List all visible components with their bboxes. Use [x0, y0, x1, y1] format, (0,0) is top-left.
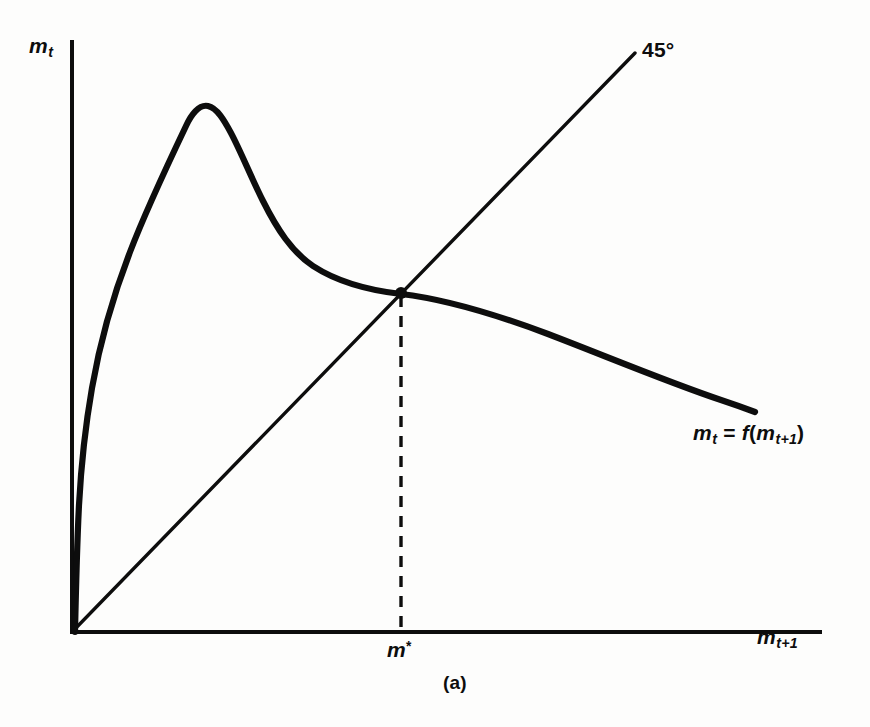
function-arg-subscript: t+1	[775, 431, 797, 447]
panel-caption: (a)	[443, 672, 467, 694]
y-axis-label-base: m	[29, 34, 48, 57]
equilibrium-label: m*	[387, 638, 411, 662]
function-equals: =	[717, 421, 742, 444]
figure-root: mt mt+1 45° mt = f(mt+1) m* (a)	[0, 0, 870, 727]
function-symbol: f	[742, 421, 749, 444]
x-axis-label-subscript: t+1	[776, 635, 798, 651]
y-axis-label: mt	[29, 34, 53, 60]
forty-five-degree-line	[72, 53, 635, 632]
forty-five-degree-label: 45°	[642, 38, 674, 62]
equilibrium-label-base: m	[387, 638, 406, 661]
x-axis-label-base: m	[757, 625, 776, 648]
function-close-paren: )	[797, 421, 804, 444]
chart-canvas	[0, 0, 870, 727]
function-label: mt = f(mt+1)	[693, 421, 804, 447]
money-demand-curve	[75, 106, 755, 632]
y-axis-label-subscript: t	[48, 44, 53, 60]
equilibrium-label-star: *	[406, 638, 412, 654]
function-arg-base: m	[756, 421, 775, 444]
x-axis-label: mt+1	[757, 625, 798, 651]
function-lhs-base: m	[693, 421, 712, 444]
equilibrium-point-marker	[395, 287, 407, 299]
